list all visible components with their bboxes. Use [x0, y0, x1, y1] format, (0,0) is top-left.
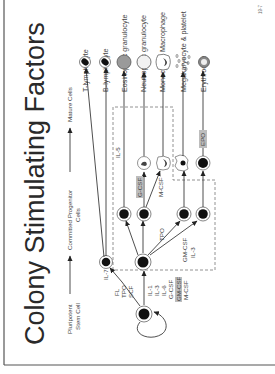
myeloid-progenitor-icon: [135, 254, 151, 270]
eos-progenitor-icon: [117, 207, 131, 221]
lymphoid-progenitor-icon: [100, 256, 113, 269]
mega-progenitor-icon: [177, 207, 191, 221]
stage-label-stem-line1: Pluripotent: [66, 304, 73, 334]
factor-fl: FL: [113, 288, 120, 296]
slide-title: Colony Stimulating Factors: [20, 22, 50, 345]
arrow-to-eos-progenitor: [126, 221, 138, 255]
factor-gmcsf: GM-CSF: [175, 276, 182, 301]
factor-il3: IL-3: [153, 285, 160, 296]
b-lymphocyte-icon: [100, 57, 111, 68]
factor-epo: EPO: [199, 133, 206, 146]
monocyte-icon: [156, 54, 170, 70]
factor-scf: SCF: [127, 285, 134, 298]
factor-tpo-myeloid: TPO: [158, 228, 165, 241]
factor-il6: IL-6: [160, 285, 167, 296]
factor-gcsf-neut: G-CSF: [136, 178, 143, 197]
cell-name-t-lymphocyte: T-lymphocyte: [81, 49, 90, 92]
factor-gcsf: G-CSF: [167, 280, 174, 299]
cell-name-b-lymphocyte: B-lymphocyte: [101, 48, 110, 92]
cell-name-megakaryocyte: Megakaryocyte & platelet: [179, 11, 188, 92]
arrow-to-t-lymphocyte: [86, 68, 104, 257]
factor-tpo: TPO: [120, 285, 127, 298]
neut-intermediate-icon: [138, 157, 151, 170]
cell-name-eosinophil: Eosinophilic granulocyte: [120, 14, 129, 92]
cell-name-monocyte: Monocyte & Macrophage: [158, 12, 167, 92]
mono-intermediate-icon: [157, 156, 171, 170]
stage-label-mature: Mature Cells: [66, 87, 73, 122]
factor-il5: IL-5: [114, 147, 121, 158]
mega-intermediate-icon: [175, 155, 188, 171]
factor-gmcsf-myeloid: GM-CSF: [181, 237, 188, 262]
stage-label-progenitor-line1: Committed Progenitor: [66, 190, 73, 250]
erythrocyte-icon: [199, 57, 210, 68]
stem-cell-icon: [136, 306, 152, 322]
page-number: 19-7: [258, 4, 263, 14]
slide-frame: Colony Stimulating Factors 19-7 Pluripot…: [0, 0, 275, 374]
stem-factor-group-2: IL-1 IL-3 IL-6 G-CSF GM-CSF M-CSF: [146, 276, 189, 302]
ery-intermediate-icon: [196, 156, 210, 170]
factor-il3-myeloid: IL-3: [189, 247, 196, 258]
factor-mcsf: M-CSF: [182, 280, 189, 300]
stage-label-progenitor-line2: Cells: [74, 208, 81, 222]
slide: Colony Stimulating Factors 19-7 Pluripot…: [0, 0, 275, 374]
ery-progenitor-icon: [196, 207, 210, 221]
cell-name-neutrophil: Neutrophilic granulocyte: [139, 15, 148, 92]
stem-factor-group-1: FL TPO SCF: [113, 285, 134, 298]
factor-mcsf-mono: M-CSF: [157, 177, 164, 197]
neutrophil-icon: [137, 55, 151, 69]
factor-il7: IL-7: [102, 269, 109, 280]
stage-label-stem-line2: Stem Cell: [74, 303, 81, 330]
eosinophil-icon: [117, 55, 131, 69]
factor-il1: IL-1: [146, 285, 153, 296]
t-lymphocyte-icon: [80, 57, 91, 68]
neut-progenitor-icon: [137, 207, 151, 221]
